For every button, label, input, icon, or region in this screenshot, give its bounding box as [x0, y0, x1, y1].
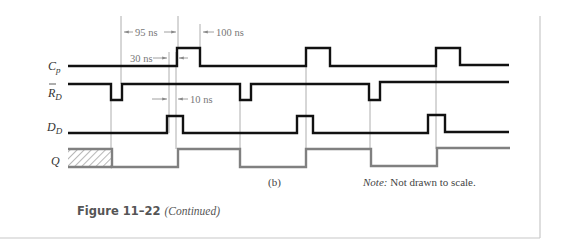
- scale-note: Note: Not drawn to scale.: [362, 176, 476, 188]
- timing-diagram: 95 ns 100 ns 30 ns 10 ns Cp RD DD Q (b) …: [0, 0, 567, 248]
- svg-text:RD: RD: [47, 86, 62, 102]
- annotation-30ns: 30 ns: [130, 53, 152, 64]
- signal-label-q: Q: [51, 154, 60, 168]
- svg-text:Cp: Cp: [48, 59, 61, 75]
- svg-text:Q: Q: [51, 154, 60, 168]
- figure-panel: 95 ns 100 ns 30 ns 10 ns Cp RD DD Q (b) …: [0, 0, 567, 248]
- waveform-dd: [68, 115, 509, 133]
- signal-label-cp: Cp: [48, 59, 61, 75]
- waveform-q: [68, 148, 510, 167]
- annotation-100ns: 100 ns: [216, 27, 244, 38]
- annotation-95ns: 95 ns: [135, 27, 157, 38]
- waveform-rd: [68, 82, 509, 100]
- signal-label-dd: DD: [46, 120, 63, 136]
- figure-caption: Figure 11–22(Continued): [77, 204, 220, 218]
- q-undefined-region: [68, 149, 112, 167]
- annotation-10ns: 10 ns: [190, 94, 212, 105]
- signal-label-rd: RD: [47, 84, 62, 102]
- part-label: (b): [268, 176, 281, 189]
- svg-text:DD: DD: [46, 120, 63, 136]
